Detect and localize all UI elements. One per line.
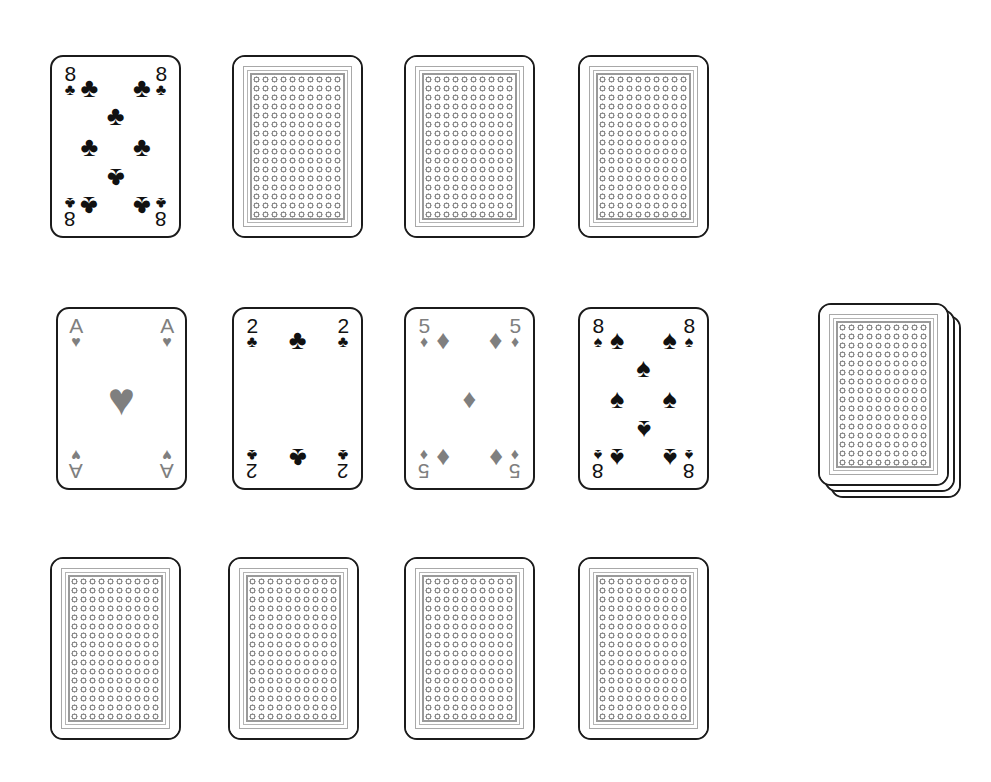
- card-back-lattice-pattern: [68, 575, 163, 722]
- playing-card-face-down[interactable]: [228, 557, 359, 740]
- card-back-lattice-pattern: [422, 575, 517, 722]
- card-back-design: [406, 559, 533, 738]
- playing-card-face-down[interactable]: [578, 557, 709, 740]
- card-back-lattice-pattern: [596, 575, 691, 722]
- playing-card-face-down[interactable]: [50, 557, 181, 740]
- card-table: 8♣8♣8♣8♣♣♣♣♣♣♣♣♣A♥A♥A♥A♥♥2♣2♣2♣2♣♣♣5♦5♦5…: [0, 0, 991, 782]
- playing-card-face-down[interactable]: [404, 557, 535, 740]
- card-back-design: [230, 559, 357, 738]
- card-back-design: [52, 559, 179, 738]
- row-3: [0, 0, 991, 782]
- card-back-lattice-pattern: [246, 575, 341, 722]
- card-back-design: [580, 559, 707, 738]
